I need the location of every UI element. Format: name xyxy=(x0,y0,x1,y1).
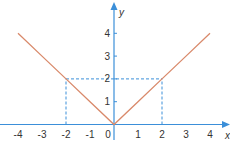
x-tick-label: 4 xyxy=(207,129,213,140)
x-tick-label: 1 xyxy=(135,129,141,140)
x-tick-label: -4 xyxy=(14,129,23,140)
y-tick-label: 2 xyxy=(104,73,110,84)
chart-svg: -4-3-2-1012341234xy xyxy=(0,0,230,141)
x-axis-label: x xyxy=(224,130,230,141)
x-tick-label: -1 xyxy=(86,129,95,140)
x-tick-label: 2 xyxy=(159,129,165,140)
abs-value-chart: -4-3-2-1012341234xy xyxy=(0,0,230,141)
y-tick-label: 4 xyxy=(104,28,110,39)
y-axis-label: y xyxy=(118,7,125,18)
x-axis-arrow-icon xyxy=(222,121,230,128)
tick-labels: -4-3-2-1012341234xy xyxy=(14,7,230,141)
x-tick-label: -3 xyxy=(38,129,47,140)
y-axis-arrow-icon xyxy=(111,2,118,10)
y-tick-label: 3 xyxy=(104,51,110,62)
y-tick-label: 1 xyxy=(104,96,110,107)
axes xyxy=(0,2,230,140)
x-tick-label: -2 xyxy=(62,129,71,140)
x-tick-label: 0 xyxy=(105,129,111,140)
x-tick-label: 3 xyxy=(183,129,189,140)
